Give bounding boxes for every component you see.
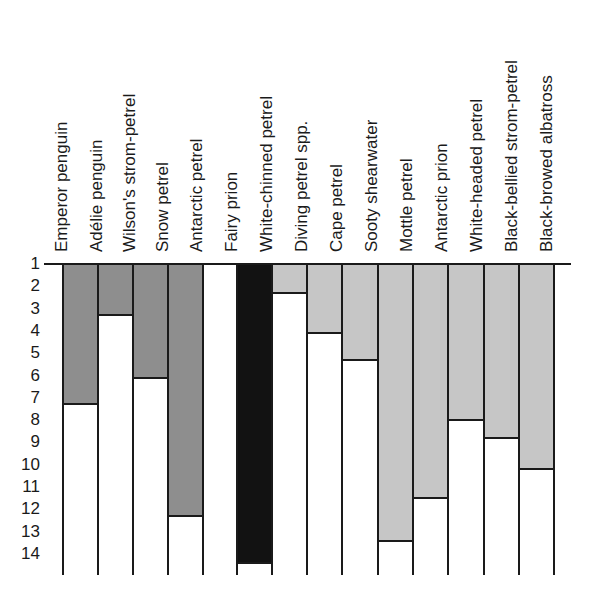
- y-tick-label: 5: [0, 344, 40, 362]
- bar-column: [484, 264, 519, 575]
- column-divider: [412, 264, 414, 575]
- bar-column: [413, 264, 448, 575]
- category-label: Cape petrel: [327, 164, 347, 252]
- bar-end-line: [307, 332, 342, 334]
- bar-end-line: [168, 515, 203, 517]
- column-divider: [447, 264, 449, 575]
- column-divider: [306, 264, 308, 575]
- bar-end-line: [484, 437, 519, 439]
- category-label: Sooty shearwater: [362, 120, 382, 252]
- bar-end-line: [133, 377, 168, 379]
- bar-column: [342, 264, 378, 575]
- column-divider: [483, 264, 485, 575]
- bar-end-line: [378, 540, 413, 542]
- column-divider: [62, 264, 64, 575]
- bar-fill: [448, 264, 484, 420]
- bar-end-line: [98, 314, 133, 316]
- bar-column: [133, 264, 168, 575]
- y-tick-label: 3: [0, 300, 40, 318]
- column-divider: [97, 264, 99, 575]
- bar-end-line: [519, 468, 554, 470]
- column-divider: [377, 264, 379, 575]
- bar-fill: [342, 264, 378, 360]
- bar-column: [203, 264, 237, 575]
- bar-fill: [272, 264, 307, 293]
- bar-column: [237, 264, 272, 575]
- y-tick-label: 8: [0, 411, 40, 429]
- category-label: Black-browed albatross: [537, 75, 557, 252]
- bar-fill: [484, 264, 519, 438]
- bar-chart: 1234567891011121314 Emperor penguinAdéli…: [0, 0, 593, 595]
- bar-column: [98, 264, 133, 575]
- bar-column: [272, 264, 307, 575]
- column-divider: [132, 264, 134, 575]
- column-divider: [167, 264, 169, 575]
- bar-end-line: [272, 292, 307, 294]
- bar-end-line: [413, 497, 448, 499]
- y-tick-label: 7: [0, 389, 40, 407]
- y-tick-label: 12: [0, 500, 40, 518]
- bar-column: [448, 264, 484, 575]
- bar-fill: [168, 264, 203, 516]
- category-label: Wilson's strom-petrel: [120, 94, 140, 252]
- category-label: White-headed petrel: [467, 99, 487, 252]
- category-label: Emperor penguin: [52, 122, 72, 252]
- category-label: White-chinned petrel: [257, 96, 277, 252]
- bar-column: [519, 264, 554, 575]
- bar-column: [168, 264, 203, 575]
- bar-fill: [98, 264, 133, 315]
- category-label: Adélie penguin: [87, 140, 107, 252]
- y-tick-label: 14: [0, 545, 40, 563]
- bar-end-line: [342, 359, 378, 361]
- bar-end-line: [237, 562, 272, 564]
- bar-fill: [63, 264, 98, 404]
- bar-end-line: [448, 419, 484, 421]
- y-tick-label: 4: [0, 322, 40, 340]
- category-label: Antarctic petrel: [187, 139, 207, 252]
- bar-fill: [413, 264, 448, 498]
- category-label: Antarctic prion: [432, 143, 452, 252]
- y-tick-label: 2: [0, 277, 40, 295]
- column-divider: [271, 264, 273, 575]
- y-tick-label: 10: [0, 456, 40, 474]
- axis-tick: [44, 263, 63, 265]
- y-tick-label: 11: [0, 478, 40, 496]
- bar-column: [378, 264, 413, 575]
- column-divider: [341, 264, 343, 575]
- bar-end-line: [63, 403, 98, 405]
- y-tick-label: 6: [0, 367, 40, 385]
- column-divider: [553, 264, 555, 575]
- category-label: Snow petrel: [153, 162, 173, 252]
- y-tick-label: 13: [0, 523, 40, 541]
- column-divider: [236, 264, 238, 575]
- y-tick-label: 1: [0, 255, 40, 273]
- bar-fill: [237, 264, 272, 563]
- category-label: Fairy prion: [222, 172, 242, 252]
- category-label: Black-bellied strom-petrel: [502, 60, 522, 252]
- category-label: Diving petrel spp.: [292, 121, 312, 252]
- bar-fill: [519, 264, 554, 469]
- bar-fill: [133, 264, 168, 378]
- bar-column: [63, 264, 98, 575]
- bar-fill: [307, 264, 342, 333]
- y-tick-label: 9: [0, 433, 40, 451]
- bar-fill: [378, 264, 413, 541]
- column-divider: [518, 264, 520, 575]
- bar-column: [307, 264, 342, 575]
- category-label: Mottle petrel: [397, 158, 417, 252]
- column-divider: [202, 264, 204, 575]
